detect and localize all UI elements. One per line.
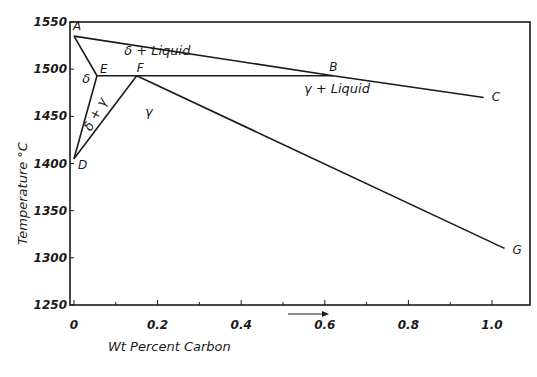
x-tick-label: 0	[70, 318, 78, 332]
y-tick-label: 1300	[34, 251, 67, 265]
point-label-b: B	[329, 60, 337, 74]
point-label-e: E	[100, 62, 108, 76]
point-label-a: A	[72, 19, 81, 33]
y-tick-label: 1350	[34, 204, 67, 218]
region-label: δ	[82, 71, 90, 86]
x-tick-label: 0.8	[398, 318, 419, 332]
y-tick-label: 1500	[34, 62, 67, 76]
x-tick-label: 0.2	[147, 318, 168, 332]
x-tick-label: 0.4	[231, 318, 252, 332]
point-label-d: D	[78, 158, 87, 172]
x-tick-label: 1.0	[481, 318, 502, 332]
x-tick-label: 0.6	[314, 318, 335, 332]
point-label-c: C	[492, 90, 501, 104]
y-tick-label: 1450	[34, 109, 67, 123]
background	[0, 0, 537, 377]
region-label: δ + Liquid	[124, 43, 191, 58]
y-axis-title: Temperature °C	[15, 141, 30, 245]
region-label: γ + Liquid	[304, 81, 371, 96]
point-label-g: G	[513, 243, 522, 257]
point-label-f: F	[137, 61, 145, 75]
y-tick-label: 1400	[34, 157, 67, 171]
region-label: γ	[145, 104, 154, 119]
y-tick-label: 1250	[34, 298, 67, 312]
phase-diagram-chart: 00.20.40.60.81.0155015001450140013501300…	[0, 0, 537, 377]
y-tick-label: 1550	[34, 15, 67, 29]
x-axis-title: Wt Percent Carbon	[108, 339, 231, 354]
